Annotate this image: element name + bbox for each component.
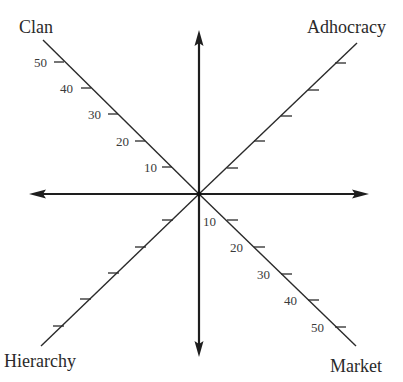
- clan-label: Clan: [19, 17, 53, 37]
- hierarchy-axis: [41, 194, 199, 346]
- culture-axes-diagram: 10 20 30 40 50: [0, 0, 403, 382]
- adhocracy-label: Adhocracy: [307, 17, 386, 37]
- clan-tick-label-40: 40: [60, 81, 73, 96]
- market-axis: 10 20 30 40 50: [199, 194, 356, 346]
- clan-tick-label-50: 50: [34, 55, 47, 70]
- market-label: Market: [330, 356, 382, 376]
- origin-point: [197, 192, 201, 196]
- clan-axis: 10 20 30 40 50: [34, 40, 199, 194]
- market-tick-label-40: 40: [284, 293, 297, 308]
- adhocracy-axis: [199, 43, 357, 194]
- market-tick-label-30: 30: [257, 267, 270, 282]
- clan-tick-label-30: 30: [88, 107, 101, 122]
- clan-tick-label-10: 10: [144, 160, 157, 175]
- market-tick-label-10: 10: [203, 214, 216, 229]
- clan-tick-label-20: 20: [116, 134, 129, 149]
- diagram-svg: 10 20 30 40 50: [0, 0, 403, 382]
- hierarchy-label: Hierarchy: [4, 351, 76, 371]
- market-tick-label-50: 50: [311, 320, 324, 335]
- market-tick-label-20: 20: [230, 240, 243, 255]
